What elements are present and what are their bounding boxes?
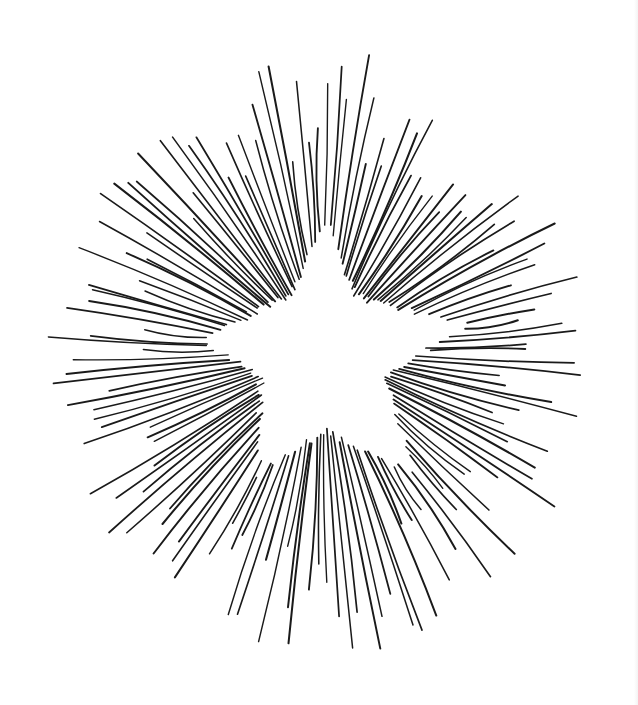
star-burst-drawing — [0, 0, 638, 705]
paper-edge-shadow — [634, 0, 638, 705]
